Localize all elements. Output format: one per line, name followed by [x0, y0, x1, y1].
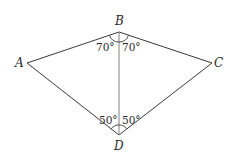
vertex-label-d: D [113, 139, 124, 153]
kite-diagram: A B C D 70° 70° 50° 50° [0, 0, 232, 160]
angle-label-adb: 50° [99, 114, 118, 126]
angle-label-bdc: 50° [122, 114, 141, 126]
vertex-label-c: C [214, 56, 223, 70]
angle-label-abd: 70° [96, 41, 115, 53]
vertex-label-a: A [14, 56, 24, 70]
vertex-label-b: B [114, 14, 124, 28]
angle-label-dbc: 70° [122, 41, 141, 53]
